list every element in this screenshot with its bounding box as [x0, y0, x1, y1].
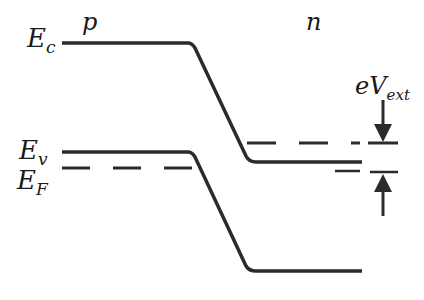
n-region-label: n: [306, 10, 321, 34]
p-region-label: p: [82, 10, 97, 34]
reference-level-marks: [335, 171, 398, 172]
valence-band-label: Ev: [19, 137, 48, 163]
external-voltage-label: eVext: [355, 74, 410, 98]
fermi-level-label: EF: [17, 167, 48, 193]
conduction-band-label: Ec: [27, 25, 56, 51]
arrow-up-icon: [374, 174, 392, 216]
valence-band-line: [62, 152, 362, 271]
arrow-down-icon: [374, 100, 392, 142]
band-diagram: [0, 0, 424, 300]
